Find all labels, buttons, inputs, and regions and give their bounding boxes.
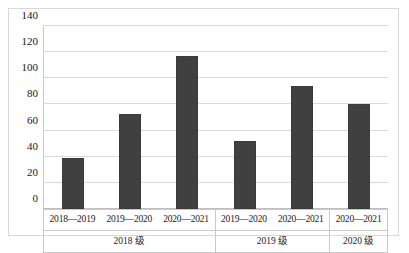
category-axis-table: 2018—20192019—20202020—20212018 级2019—20… (43, 209, 388, 253)
bar[interactable] (119, 114, 141, 209)
bar[interactable] (291, 86, 313, 209)
category-group-label: 2018 级 (44, 231, 215, 253)
y-axis-tick-label: 20 (27, 166, 38, 177)
bar[interactable] (234, 141, 256, 209)
bar-slot (216, 26, 273, 209)
category-group-terms: 2018—20192019—20202020—2021 (44, 209, 215, 231)
category-term-label: 2018—2019 (44, 210, 101, 230)
bar-slot (159, 26, 216, 209)
y-axis-tick-label: 120 (22, 36, 39, 47)
y-axis-tick-label: 60 (27, 114, 38, 125)
category-term-label: 2019—2020 (101, 210, 158, 230)
bar[interactable] (176, 56, 198, 209)
y-axis-tick-label: 80 (27, 88, 38, 99)
category-group-label: 2020 级 (330, 231, 387, 253)
category-group-terms: 2020—2021 (330, 209, 387, 231)
bar-series (44, 26, 388, 209)
category-group: 2018—20192019—20202020—20212018 级 (44, 209, 216, 253)
bar-slot (44, 26, 101, 209)
bar-slot (331, 26, 388, 209)
chart-figure: 020406080100120140 2018—20192019—2020202… (8, 8, 399, 236)
y-axis-tick-label: 0 (33, 193, 39, 204)
category-group-label: 2019 级 (216, 231, 330, 253)
y-axis-tick-label: 140 (22, 10, 39, 21)
category-group: 2020—20212020 级 (330, 209, 388, 253)
bar-slot (273, 26, 330, 209)
category-term-label: 2020—2021 (158, 210, 215, 230)
y-axis-tick-label: 40 (27, 140, 38, 151)
y-axis-tick-label: 100 (22, 62, 39, 73)
category-group: 2019—20202020—20212019 级 (216, 209, 331, 253)
category-group-terms: 2019—20202020—2021 (216, 209, 330, 231)
bar[interactable] (62, 158, 84, 209)
bar-slot (101, 26, 158, 209)
category-term-label: 2020—2021 (272, 210, 329, 230)
bar[interactable] (348, 104, 370, 209)
category-term-label: 2019—2020 (216, 210, 273, 230)
plot-area: 020406080100120140 (43, 26, 388, 209)
category-term-label: 2020—2021 (330, 210, 387, 230)
